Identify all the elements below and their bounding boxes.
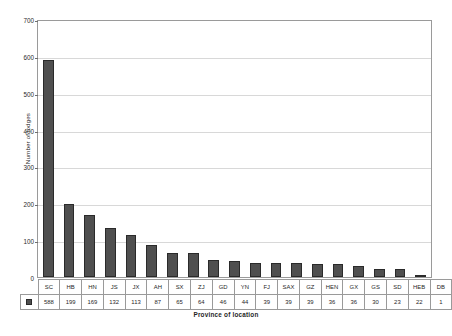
bar-hen (312, 264, 323, 277)
value-cell: 132 (103, 295, 125, 310)
category-cell: GD (212, 280, 234, 295)
bar-slot (286, 21, 307, 277)
value-cell: 22 (408, 295, 430, 310)
bar-ah (146, 245, 157, 277)
value-cell: 39 (256, 295, 278, 310)
category-cell: JX (125, 280, 147, 295)
value-cell: 65 (169, 295, 191, 310)
bar-sd (374, 269, 385, 277)
table-row-categories: SCHBHNJSJXAHSXZJGDYNFJSAXGZHENGXGSSDHEBD… (21, 280, 452, 295)
bar-slot (328, 21, 349, 277)
bar-slot (224, 21, 245, 277)
value-cell: 64 (190, 295, 212, 310)
y-tick-label: 400 (10, 127, 34, 134)
category-cell: SX (169, 280, 191, 295)
bar-slot (141, 21, 162, 277)
category-cell: AH (147, 280, 169, 295)
bar-zj (188, 253, 199, 277)
category-cell: GX (343, 280, 365, 295)
y-tick-label: 100 (10, 238, 34, 245)
value-cell: 44 (234, 295, 256, 310)
table-row-values: 5881991691321138765644644393939363630232… (21, 295, 452, 310)
value-cell: 23 (387, 295, 409, 310)
category-cell: HEN (321, 280, 343, 295)
bar-slot (162, 21, 183, 277)
y-tick-label: 600 (10, 53, 34, 60)
bar-gs (353, 266, 364, 277)
category-cell: SAX (278, 280, 300, 295)
bar-jx (126, 235, 137, 277)
bar-db (415, 275, 426, 277)
bar-gx (333, 264, 344, 277)
bar-slot (204, 21, 225, 277)
y-tick-label: 200 (10, 201, 34, 208)
bar-gz (291, 263, 302, 277)
legend-swatch-cell (21, 295, 39, 310)
bar-js (105, 228, 116, 277)
category-cell: SD (387, 280, 409, 295)
category-cell: ZJ (190, 280, 212, 295)
value-cell: 36 (343, 295, 365, 310)
bar-slot (369, 21, 390, 277)
value-cell: 36 (321, 295, 343, 310)
value-cell: 588 (38, 295, 60, 310)
bar-slot (307, 21, 328, 277)
bar-heb (395, 269, 406, 277)
category-cell: GS (365, 280, 387, 295)
bar-slot (79, 21, 100, 277)
value-cell: 87 (147, 295, 169, 310)
bar-hb (64, 204, 75, 277)
value-cell: 30 (365, 295, 387, 310)
value-cell: 169 (82, 295, 104, 310)
value-cell: 1 (430, 295, 452, 310)
value-cell: 39 (299, 295, 321, 310)
bar-slot (38, 21, 59, 277)
value-cell: 46 (212, 295, 234, 310)
bar-slot (348, 21, 369, 277)
bar-hn (84, 215, 95, 277)
bar-sx (167, 253, 178, 277)
y-axis-tick-labels: 0100200300400500600700 (10, 20, 34, 278)
plot-area (37, 20, 432, 278)
category-cell: FJ (256, 280, 278, 295)
x-axis-title: Province of location (20, 311, 432, 318)
value-cell: 39 (278, 295, 300, 310)
y-tick-label: 300 (10, 164, 34, 171)
bar-slot (183, 21, 204, 277)
category-cell: YN (234, 280, 256, 295)
category-cell: DB (430, 280, 452, 295)
category-cell: HN (82, 280, 104, 295)
category-cell: HB (60, 280, 82, 295)
bar-slot (410, 21, 431, 277)
bar-slot (245, 21, 266, 277)
category-cell: SC (38, 280, 60, 295)
bar-slot (266, 21, 287, 277)
bar-yn (229, 261, 240, 277)
bar-slot (121, 21, 142, 277)
table-corner-cell (21, 280, 39, 295)
category-cell: HEB (408, 280, 430, 295)
series-swatch-icon (26, 299, 32, 305)
bar-sax (271, 263, 282, 277)
value-cell: 113 (125, 295, 147, 310)
bar-slot (390, 21, 411, 277)
value-cell: 199 (60, 295, 82, 310)
bar-gd (208, 260, 219, 277)
bar-slot (59, 21, 80, 277)
category-cell: GZ (299, 280, 321, 295)
bar-sc (43, 60, 54, 277)
bar-slot (100, 21, 121, 277)
y-tick-label: 700 (10, 17, 34, 24)
bar-fj (250, 263, 261, 277)
bars-layer (38, 21, 431, 277)
data-table: SCHBHNJSJXAHSXZJGDYNFJSAXGZHENGXGSSDHEBD… (20, 279, 452, 310)
y-tick-label: 500 (10, 90, 34, 97)
category-cell: JS (103, 280, 125, 295)
